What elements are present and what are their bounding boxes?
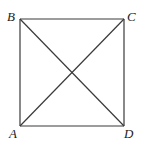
vertex-label-a: A (8, 126, 17, 141)
square-diagram: B C A D (0, 0, 146, 150)
vertex-label-b: B (7, 9, 15, 24)
vertex-label-c: C (127, 9, 136, 24)
vertex-labels: B C A D (7, 9, 136, 141)
square-diagonals (20, 19, 124, 126)
vertex-label-d: D (123, 126, 134, 141)
